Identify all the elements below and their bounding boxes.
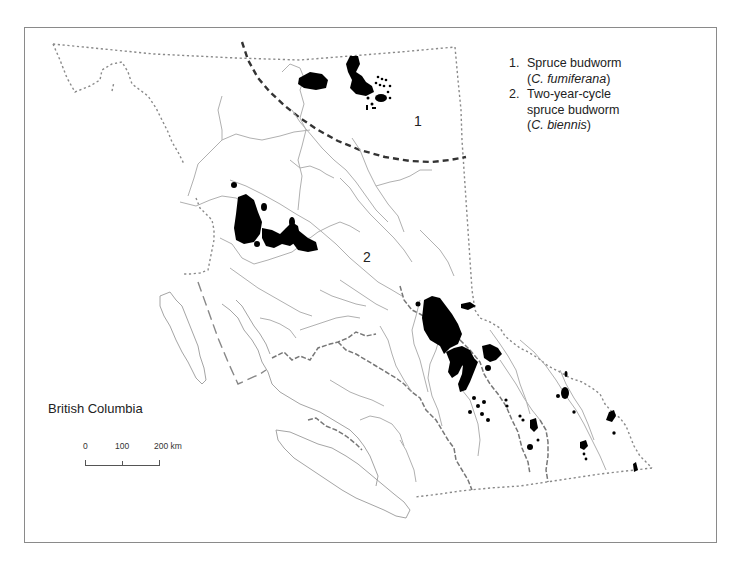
legend-common-name-line1: Two-year-cycle: [527, 87, 619, 103]
legend-scientific-name-line: (C. biennis): [527, 118, 619, 134]
scale-label-100: 100: [115, 441, 129, 451]
coastal-boundary: [198, 282, 266, 384]
region-label-2: 2: [363, 249, 371, 265]
legend-item-two-year-cycle-budworm: 2. Two-year-cycle spruce budworm (C. bie…: [509, 87, 622, 134]
legend-scientific-name: C. biennis: [531, 118, 587, 132]
scale-label-0: 0: [83, 441, 88, 451]
paren-close: ): [587, 118, 591, 132]
scale-label-200: 200 km: [154, 441, 182, 451]
map-legend: 1. Spruce budworm (C. fumiferana) 2. Two…: [509, 56, 622, 134]
legend-scientific-name-line: (C. fumiferana): [527, 72, 622, 88]
map-title: British Columbia: [48, 401, 143, 416]
legend-common-name: Spruce budworm: [527, 56, 622, 72]
region-label-1: 1: [414, 113, 422, 129]
scale-bar-mid-tick: [122, 461, 123, 466]
bc-budworm-map: [0, 0, 740, 565]
scale-bar: 0 100 200 km: [78, 441, 208, 471]
coastline: [160, 292, 410, 518]
paren-close: ): [606, 72, 610, 86]
legend-item-spruce-budworm: 1. Spruce budworm (C. fumiferana): [509, 56, 622, 87]
legend-number: 1.: [509, 56, 527, 87]
legend-common-name-line2: spruce budworm: [527, 103, 619, 119]
legend-number: 2.: [509, 87, 527, 134]
legend-scientific-name: C. fumiferana: [531, 72, 606, 86]
